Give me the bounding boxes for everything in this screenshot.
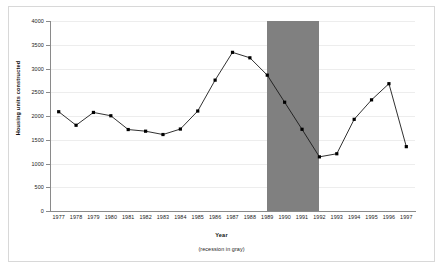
- data-point-marker: 1992: 1140: [318, 155, 321, 158]
- data-point-marker: 1995: 2340: [370, 98, 373, 101]
- x-axis-tick-label: 1981: [122, 214, 134, 220]
- data-point-marker: 1989: 2860: [266, 74, 269, 77]
- x-axis-title: Year: [0, 232, 443, 238]
- x-axis-tick-label: 1983: [157, 214, 169, 220]
- x-axis-tick-label: 1984: [174, 214, 186, 220]
- data-point-marker: 1996: 2680: [387, 82, 390, 85]
- data-point-marker: 1987: 3340: [231, 51, 234, 54]
- x-axis-tick-label: 1982: [139, 214, 151, 220]
- x-axis-tick-label: 1997: [400, 214, 412, 220]
- x-axis-tick-label: 1988: [244, 214, 256, 220]
- series-polyline: [59, 52, 407, 157]
- data-point-marker: 1994: 1930: [353, 118, 356, 121]
- x-axis-tick-label: 1977: [52, 214, 64, 220]
- x-axis-tick-label: 1986: [209, 214, 221, 220]
- data-point-marker: 1978: 1805: [74, 124, 77, 127]
- x-axis-tick-label: 1987: [226, 214, 238, 220]
- chart-figure: 05001000150020002500300035004000 1977: 2…: [0, 0, 443, 275]
- x-axis-tick-label: 1989: [261, 214, 273, 220]
- data-point-marker: 1977: 2090: [57, 110, 60, 113]
- x-axis-tick-label: 1979: [87, 214, 99, 220]
- data-point-marker: 1988: 3225: [248, 56, 251, 59]
- x-axis-tick-labels: 1977197819791980198119821983198419851986…: [0, 214, 443, 226]
- data-point-marker: 1979: 2075: [92, 111, 95, 114]
- x-axis-tick-label: 1991: [296, 214, 308, 220]
- x-axis-tick-label: 1994: [348, 214, 360, 220]
- chart-caption: (recession in gray): [0, 246, 443, 252]
- x-axis-tick-label: 1980: [105, 214, 117, 220]
- data-point-marker: 1980: 2005: [109, 114, 112, 117]
- x-axis-tick-label: 1995: [365, 214, 377, 220]
- x-axis-tick-label: 1996: [383, 214, 395, 220]
- data-point-marker: 1991: 1720: [300, 128, 303, 131]
- data-point-marker: 1983: 1610: [161, 133, 164, 136]
- data-point-marker: 1990: 2290: [283, 101, 286, 104]
- data-point-marker: 1993: 1205: [335, 152, 338, 155]
- y-axis-title: Housing units constructed: [15, 33, 21, 163]
- x-axis-tick-label: 1992: [313, 214, 325, 220]
- x-axis-tick-label: 1993: [331, 214, 343, 220]
- x-axis-tick-label: 1985: [192, 214, 204, 220]
- data-point-marker: 1981: 1715: [127, 128, 130, 131]
- data-point-marker: 1985: 2105: [196, 109, 199, 112]
- data-point-marker: 1984: 1725: [179, 127, 182, 130]
- x-axis-tick-label: 1978: [70, 214, 82, 220]
- x-axis-tick-label: 1990: [278, 214, 290, 220]
- data-point-marker: 1997: 1355: [405, 145, 408, 148]
- data-point-marker: 1982: 1680: [144, 130, 147, 133]
- data-point-marker: 1986: 2755: [214, 79, 217, 82]
